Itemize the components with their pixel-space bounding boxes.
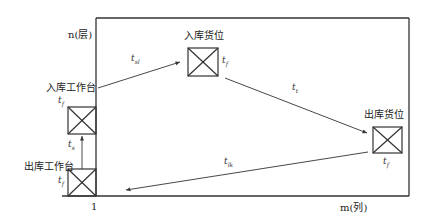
- outbound-station-time: tf: [58, 175, 64, 187]
- outbound-slot-box-icon: [373, 127, 402, 153]
- edge-tsl-label: tsl: [131, 53, 140, 65]
- outbound-slot-label: 出库货位: [364, 106, 404, 121]
- edge-tt-label: tt: [292, 82, 298, 94]
- inbound-slot-time: tf: [222, 55, 228, 67]
- outbound-station-label: 出库工作台: [24, 158, 74, 173]
- outbound-station-box-icon: [68, 169, 96, 196]
- edge-ts-label: ts: [68, 139, 75, 151]
- inbound-slot-label: 入库货位: [184, 27, 224, 42]
- y-axis-label: n(层): [68, 26, 92, 41]
- origin-tick-label: 1: [91, 201, 97, 212]
- rack-frame: [62, 18, 409, 196]
- outbound-slot-time: tf: [383, 156, 389, 168]
- arrow-tlk: [126, 152, 368, 190]
- x-axis-label: m(列): [340, 199, 367, 214]
- edge-tlk-label: tlk: [224, 156, 233, 168]
- inbound-station-box-icon: [68, 107, 96, 134]
- inbound-slot-box-icon: [188, 48, 218, 76]
- inbound-station-label: 入库工作台: [46, 79, 96, 94]
- arrow-tsl: [98, 62, 180, 88]
- inbound-station-time: tf: [58, 95, 64, 107]
